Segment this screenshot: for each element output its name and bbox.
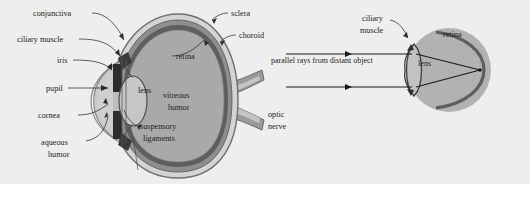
- label-right-ciliary-muscle-line2: muscle: [360, 26, 384, 35]
- label-cornea: cornea: [38, 111, 60, 120]
- label-suspensory-ligaments-line2: ligaments: [143, 134, 175, 143]
- label-conjunctiva: conjunctiva: [33, 9, 72, 18]
- label-right-retina: retina: [443, 30, 462, 39]
- label-vitreous-humor-line1: vitreous: [163, 91, 189, 100]
- label-pupil: pupil: [46, 84, 64, 93]
- label-suspensory-ligaments-line1: suspensory: [140, 122, 177, 131]
- label-right-ciliary-muscle-line1: ciliary: [362, 14, 384, 23]
- label-sclera: sclera: [231, 9, 250, 18]
- label-ciliary-muscle: ciliary muscle: [17, 35, 64, 44]
- label-iris: iris: [57, 56, 67, 65]
- page-bottom-margin: [0, 184, 530, 202]
- label-optic-nerve-line1: optic: [268, 110, 285, 119]
- label-lens: lens: [138, 86, 151, 95]
- label-choroid: choroid: [239, 31, 264, 40]
- lens-shape: [119, 76, 147, 126]
- figure-canvas: conjunctiva ciliary muscle iris pupil co…: [0, 0, 530, 184]
- label-optic-nerve-line2: nerve: [268, 122, 287, 131]
- label-aqueous-humor-line2: humor: [48, 150, 70, 159]
- right-eye-focus-diagram: ciliary muscle parallel rays from distan…: [271, 14, 491, 112]
- eye-anatomy-figure: conjunctiva ciliary muscle iris pupil co…: [0, 0, 530, 184]
- label-parallel-rays: parallel rays from distant object: [271, 56, 374, 65]
- label-retina: retina: [176, 52, 195, 61]
- iris-lower-shape: [113, 111, 122, 139]
- left-eye-cross-section: conjunctiva ciliary muscle iris pupil co…: [17, 9, 287, 178]
- focal-point: [478, 68, 482, 72]
- label-vitreous-humor-line2: humor: [168, 103, 190, 112]
- label-right-lens: lens: [418, 59, 431, 68]
- label-aqueous-humor-line1: aqueous: [41, 138, 68, 147]
